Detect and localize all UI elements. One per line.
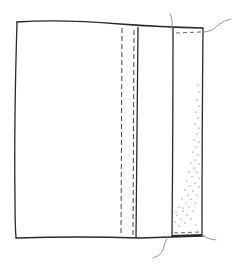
fold-line <box>136 27 138 238</box>
stitch-line-left <box>121 28 122 236</box>
binding-stitch-top <box>176 32 201 33</box>
stipple-shading <box>174 84 199 226</box>
stitch-line-right <box>133 30 134 236</box>
binding-stitch-bottom <box>174 232 200 233</box>
sewing-diagram: Fabric panel with stitched binding strip <box>0 0 239 270</box>
thread-tails <box>153 14 231 258</box>
diagram-drawing <box>0 0 239 270</box>
binding-strip <box>172 28 203 237</box>
fabric-panel <box>15 21 203 238</box>
